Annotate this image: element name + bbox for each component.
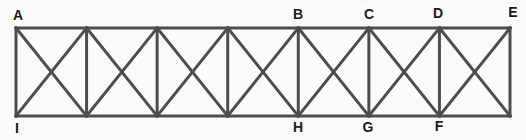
joint-label-bottom-2: G [363,119,374,135]
truss-diagram-page: ABCDEIHGF [0,0,526,140]
joint-label-top-3: D [433,5,443,21]
joint-label-top-1: B [293,6,303,22]
joint-label-bottom-3: F [435,118,444,134]
joint-label-bottom-0: I [15,120,19,136]
joint-label-top-0: A [13,7,23,23]
joint-label-top-2: C [364,6,374,22]
diagonal-members [16,28,510,116]
joint-label-bottom-1: H [293,119,303,135]
truss-diagram: ABCDEIHGF [0,0,526,140]
joint-label-top-4: E [508,4,517,20]
